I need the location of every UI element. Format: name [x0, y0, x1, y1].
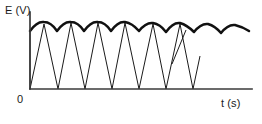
ripple-segment	[180, 24, 193, 89]
ripple-triangle-traces	[30, 23, 200, 89]
origin-label: 0	[17, 94, 23, 105]
ripple-segment	[44, 24, 58, 89]
ripple-segment	[85, 23, 98, 89]
ripple-segment	[58, 23, 71, 89]
ripple-segment-truncated	[193, 56, 200, 89]
x-axis-label: t (s)	[221, 98, 240, 109]
ripple-segment	[112, 23, 125, 89]
ripple-segment	[98, 23, 112, 89]
ripple-segment	[139, 24, 153, 89]
ripple-segment-truncated	[172, 30, 186, 64]
ripple-segment	[166, 24, 180, 89]
ripple-segment	[30, 24, 44, 89]
y-axis-label: E (V)	[5, 5, 31, 16]
ripple-segment	[153, 24, 166, 89]
envelope-trace	[30, 22, 249, 33]
envelope-curve	[30, 22, 249, 33]
ripple-segment	[125, 23, 139, 89]
waveform-figure: E (V) t (s) 0	[0, 0, 262, 124]
ripple-segment	[71, 23, 85, 89]
